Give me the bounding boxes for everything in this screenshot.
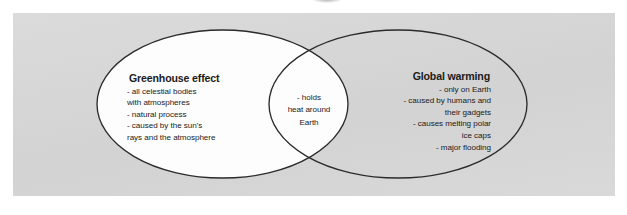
right-set-body: - only on Earth - caused by humans and t… bbox=[403, 85, 491, 152]
left-set-body: - all celestial bodies with atmospheres … bbox=[127, 87, 215, 142]
right-set-title: Global warming bbox=[348, 69, 491, 83]
right-set-text: Global warming- only on Earth - caused b… bbox=[348, 57, 491, 153]
intersection-text: - holds heat around Earth bbox=[271, 80, 347, 129]
left-set-text: Greenhouse effect- all celestial bodies … bbox=[127, 59, 279, 144]
intersection-body: - holds heat around Earth bbox=[288, 93, 331, 126]
page-background: Greenhouse effect- all celestial bodies … bbox=[0, 0, 627, 215]
left-set-title: Greenhouse effect bbox=[127, 71, 279, 85]
